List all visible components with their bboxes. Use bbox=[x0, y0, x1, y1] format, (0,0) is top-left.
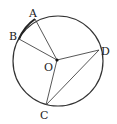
center-point bbox=[55, 58, 58, 61]
label-b: B bbox=[9, 30, 17, 43]
label-o: O bbox=[44, 61, 53, 74]
label-c: C bbox=[40, 109, 48, 122]
label-d: D bbox=[101, 45, 110, 58]
circle-diagram: A B O D C bbox=[0, 0, 117, 124]
segment-od bbox=[57, 50, 99, 60]
label-a: A bbox=[28, 7, 38, 20]
